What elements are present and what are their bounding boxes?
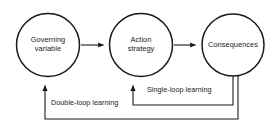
edge-label-double-loop-learning: Double-loop learning xyxy=(50,99,119,107)
node-circle-governing xyxy=(17,14,80,77)
node-circle-action xyxy=(110,14,173,77)
diagram-canvas: Governing variable Action strategy Conse… xyxy=(0,0,277,128)
edge-label-single-loop-learning: Single-loop learning xyxy=(146,86,213,94)
node-circle-consequences xyxy=(202,14,264,76)
diagram-graphics xyxy=(0,0,277,128)
